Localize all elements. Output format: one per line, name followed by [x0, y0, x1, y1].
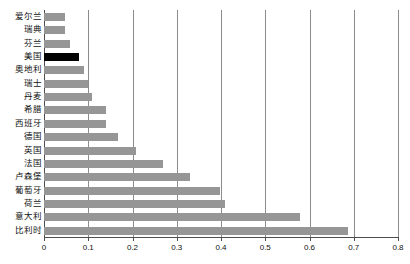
category-label: 法国 — [0, 157, 42, 170]
bar-row — [44, 184, 398, 197]
category-label: 葡萄牙 — [0, 184, 42, 197]
bar — [44, 227, 348, 235]
x-axis-tick — [265, 237, 266, 241]
x-axis-tick — [44, 237, 45, 241]
category-label: 爱尔兰 — [0, 10, 42, 23]
x-axis-tick-label: 0 — [32, 243, 56, 253]
bar-row — [44, 10, 398, 23]
category-label: 卢森堡 — [0, 170, 42, 183]
bar — [44, 133, 118, 141]
x-axis-tick-label: 0.6 — [298, 243, 322, 253]
category-label: 意大利 — [0, 210, 42, 223]
bar — [44, 173, 190, 181]
category-label: 瑞典 — [0, 23, 42, 36]
bar — [44, 120, 106, 128]
bar-row — [44, 90, 398, 103]
category-label: 德国 — [0, 130, 42, 143]
category-label: 芬兰 — [0, 37, 42, 50]
x-axis-tick-label: 0.8 — [386, 243, 410, 253]
bar-row — [44, 197, 398, 210]
category-label: 英国 — [0, 144, 42, 157]
x-axis-tick-label: 0.4 — [209, 243, 233, 253]
x-axis-tick — [88, 237, 89, 241]
category-label: 奥地利 — [0, 63, 42, 76]
bar — [44, 53, 79, 61]
category-label: 比利时 — [0, 224, 42, 237]
bar-row — [44, 170, 398, 183]
bar — [44, 80, 88, 88]
bar — [44, 147, 136, 155]
bar — [44, 187, 220, 195]
gridline — [398, 10, 399, 237]
x-axis-tick — [133, 237, 134, 241]
x-axis-tick-label: 0.7 — [342, 243, 366, 253]
bar-row — [44, 50, 398, 63]
bar — [44, 213, 300, 221]
x-axis-tick — [398, 237, 399, 241]
x-axis-tick-label: 0.3 — [165, 243, 189, 253]
bar-row — [44, 144, 398, 157]
category-label: 荷兰 — [0, 197, 42, 210]
x-axis-tick-label: 0.1 — [76, 243, 100, 253]
x-axis-tick — [310, 237, 311, 241]
category-label: 瑞士 — [0, 77, 42, 90]
category-label: 希腊 — [0, 103, 42, 116]
x-axis-tick-label: 0.5 — [253, 243, 277, 253]
bar-row — [44, 157, 398, 170]
bar — [44, 106, 106, 114]
bar — [44, 40, 70, 48]
category-label: 西班牙 — [0, 117, 42, 130]
bar — [44, 26, 65, 34]
bar-row — [44, 103, 398, 116]
bar — [44, 160, 163, 168]
bar — [44, 13, 65, 21]
bar — [44, 66, 84, 74]
category-label: 丹麦 — [0, 90, 42, 103]
bar — [44, 200, 225, 208]
bar-row — [44, 63, 398, 76]
bar-row — [44, 130, 398, 143]
bar-row — [44, 117, 398, 130]
bar-row — [44, 23, 398, 36]
bar-row — [44, 37, 398, 50]
bar-row — [44, 224, 398, 237]
category-label: 美国 — [0, 50, 42, 63]
x-axis-tick — [221, 237, 222, 241]
x-axis-tick — [354, 237, 355, 241]
bar-row — [44, 77, 398, 90]
x-axis-tick — [177, 237, 178, 241]
x-axis-tick-label: 0.2 — [121, 243, 145, 253]
plot-area — [44, 10, 398, 237]
bar-row — [44, 210, 398, 223]
bar — [44, 93, 92, 101]
bar-chart: 00.10.20.30.40.50.60.70.8 爱尔兰瑞典芬兰美国奥地利瑞士… — [0, 0, 410, 264]
